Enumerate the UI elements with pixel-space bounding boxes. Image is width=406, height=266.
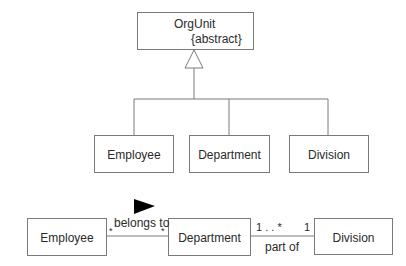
class-name: Employee	[95, 149, 173, 161]
class-name: OrgUnit	[174, 18, 215, 30]
class-name: Department	[169, 232, 250, 244]
multiplicity-department-end: *	[161, 227, 165, 236]
class-employee-assoc[interactable]: Employee	[27, 218, 107, 256]
class-division-assoc[interactable]: Division	[314, 218, 393, 255]
class-orgunit[interactable]: OrgUnit {abstract}	[137, 12, 254, 50]
multiplicity-employee-end: *	[109, 227, 113, 236]
inheritance-triangle-icon	[185, 50, 203, 68]
multiplicity-division-end: 1	[304, 222, 310, 233]
class-department-assoc[interactable]: Department	[168, 218, 251, 256]
class-division[interactable]: Division	[289, 135, 369, 173]
class-name: Employee	[28, 232, 106, 244]
class-stereotype: {abstract}	[191, 33, 242, 45]
class-name: Department	[190, 149, 269, 161]
association-name-part-of: part of	[265, 241, 299, 253]
class-department[interactable]: Department	[189, 135, 270, 173]
direction-arrow-icon	[134, 199, 155, 214]
class-employee[interactable]: Employee	[94, 135, 174, 173]
class-name: Division	[315, 232, 392, 244]
class-name: Division	[290, 149, 368, 161]
multiplicity-department-to-division: 1 . . *	[256, 222, 282, 233]
